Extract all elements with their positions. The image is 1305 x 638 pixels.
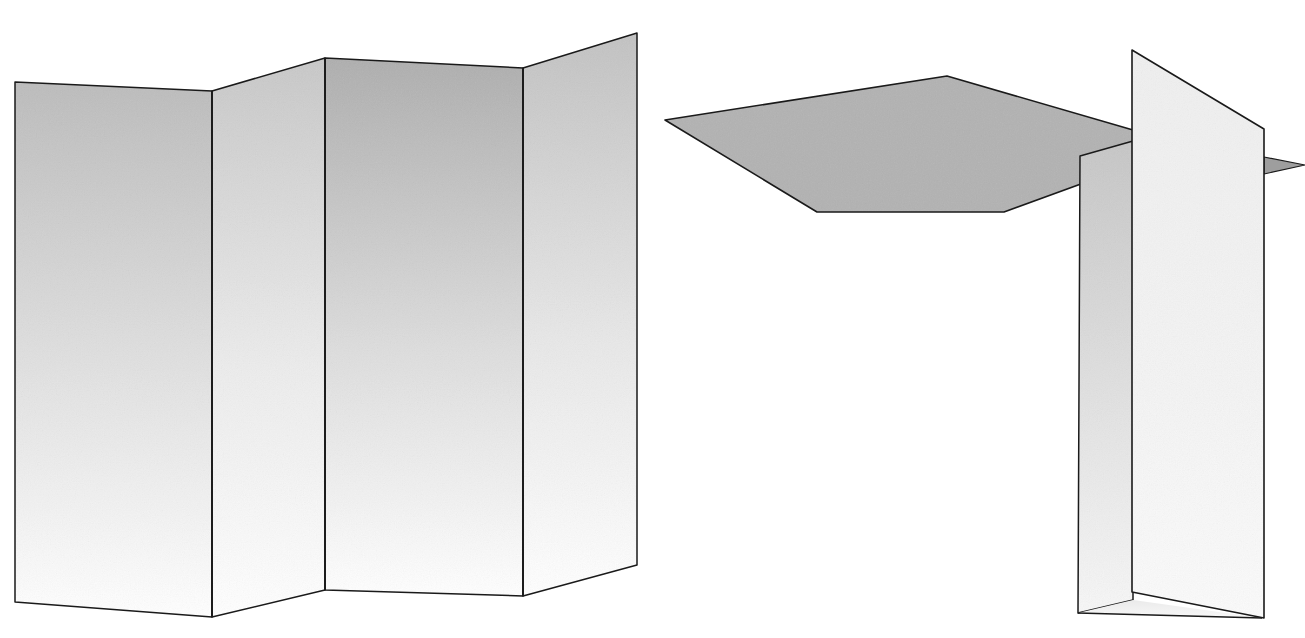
facet-1	[15, 82, 212, 617]
left-figure-accordion-folded-sheet	[15, 33, 637, 617]
facet-3	[325, 58, 523, 596]
figure-canvas-container	[0, 0, 1305, 638]
vector-figure-canvas	[0, 0, 1305, 638]
back-upright-panel	[1078, 141, 1133, 613]
front-upright-panel	[1132, 50, 1264, 618]
facet-2	[212, 58, 325, 617]
facet-4	[523, 33, 637, 596]
